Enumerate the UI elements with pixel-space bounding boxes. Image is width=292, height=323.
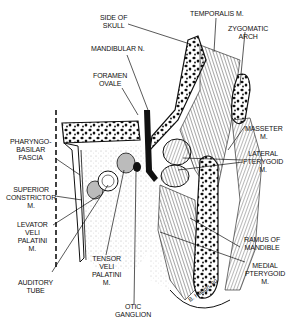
label-lateral-pterygoid: LATERAL PTERYGOID M.	[243, 150, 283, 174]
label-temporalis: TEMPORALIS M.	[190, 10, 244, 18]
skull-base-bone	[62, 121, 140, 143]
label-masseter: MASSETER M.	[245, 125, 283, 141]
label-otic-ganglion: OTIC GANGLION	[115, 303, 151, 319]
label-tensor-veli-palatini: TENSOR VELI PALATINI M.	[92, 255, 121, 287]
lateral-pterygoid-upper	[163, 139, 191, 165]
label-zygomatic-arch: ZYGOMATIC ARCH	[228, 25, 268, 41]
label-superior-constrictor: SUPERIOR CONSTRICTOR M.	[6, 186, 56, 210]
label-foramen-ovale: FORAMEN OVALE	[93, 72, 127, 88]
label-mandibular-nerve: MANDIBULAR N.	[91, 45, 145, 53]
label-side-of-skull: SIDE OF SKULL	[100, 14, 127, 30]
lateral-pterygoid-lower	[161, 165, 189, 187]
label-ramus-of-mandible: RAMUS OF MANDIBLE	[244, 236, 280, 252]
anatomy-figure: B. Haugh '80 SIDE OF SKULL TEMPORALIS M.…	[0, 0, 292, 323]
tensor-veli-palatini	[117, 153, 135, 173]
label-levator-veli-palatini: LEVATOR VELI PALATINI M.	[17, 221, 48, 253]
otic-ganglion	[133, 162, 141, 172]
label-medial-pterygoid: MEDIAL PTERYGOID M.	[245, 262, 285, 286]
label-pharyngobasilar-fascia: PHARYNGO- BASILAR FASCIA	[10, 138, 51, 162]
label-auditory-tube: AUDITORY TUBE	[18, 279, 53, 295]
